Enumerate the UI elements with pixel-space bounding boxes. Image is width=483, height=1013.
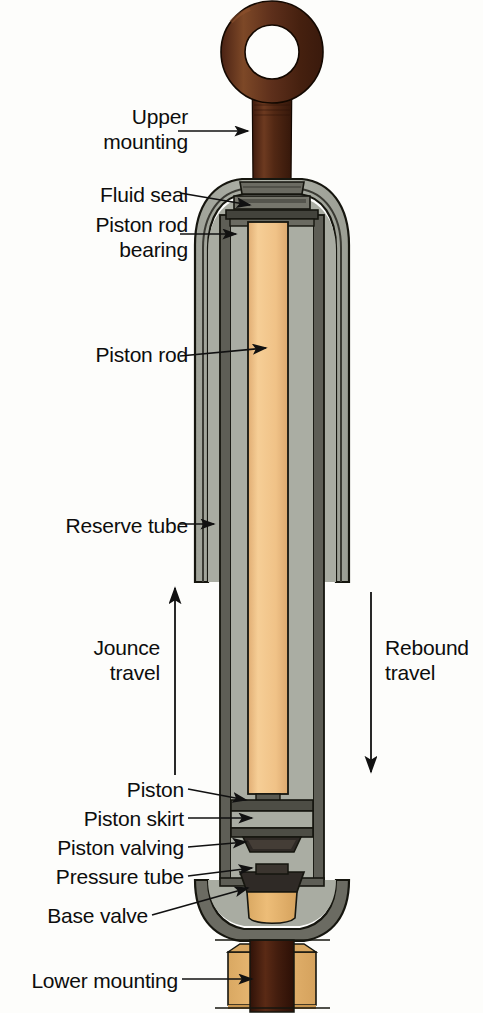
label-fluid-seal: Fluid seal	[8, 182, 188, 207]
upper-mounting-eye-bore	[245, 25, 299, 79]
piston-lower-plate	[231, 828, 313, 837]
pressure-tube-wall-left	[220, 215, 231, 890]
piston-rod	[248, 222, 288, 794]
base-valve	[240, 872, 304, 892]
piston-rod-shaft	[248, 222, 288, 794]
pressure-tube-wall-right	[313, 215, 324, 890]
lower-mounting-pin	[250, 940, 294, 1012]
label-lower-mounting: Lower mounting	[0, 968, 178, 993]
label-base-valve: Base valve	[8, 903, 148, 928]
label-reserve-tube: Reserve tube	[8, 513, 188, 538]
upper-mounting-assembly	[221, 1, 323, 182]
piston-skirt	[231, 811, 313, 828]
label-jounce-travel: Jounce travel	[8, 635, 160, 685]
label-piston-rod: Piston rod	[8, 342, 188, 367]
label-piston-valving: Piston valving	[8, 835, 184, 860]
base-valve-assembly	[195, 864, 349, 941]
lower-mounting-assembly	[215, 940, 330, 1012]
shock-absorber-diagram: Upper mounting Fluid seal Piston rod bea…	[0, 0, 483, 1013]
piston-rod-bearing	[226, 210, 318, 219]
rod-guide-cap	[240, 182, 304, 194]
label-rebound-travel: Rebound travel	[385, 635, 483, 685]
label-pressure-tube: Pressure tube	[8, 864, 184, 889]
base-valve-stem	[256, 864, 288, 874]
piston	[231, 800, 313, 811]
label-piston: Piston	[8, 777, 184, 802]
label-upper-mounting: Upper mounting	[8, 104, 188, 154]
base-valve-seat	[247, 892, 297, 923]
label-piston-rod-bearing: Piston rod bearing	[8, 212, 188, 262]
label-piston-skirt: Piston skirt	[8, 806, 184, 831]
